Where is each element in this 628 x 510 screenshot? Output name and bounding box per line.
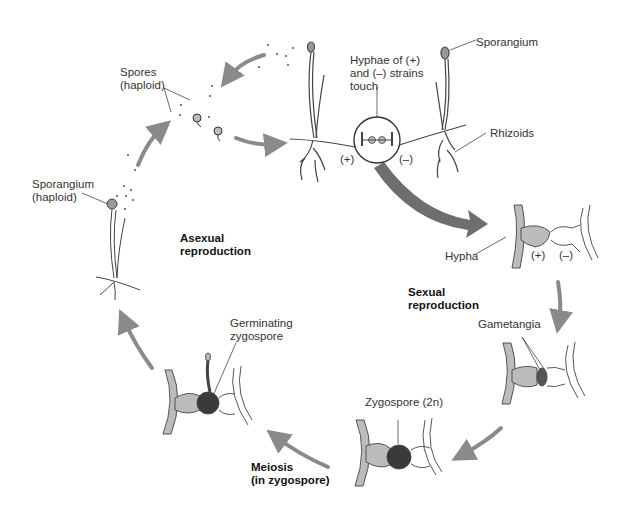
label-plus-strain: (+)	[340, 153, 354, 166]
label-gametangia: Gametangia	[478, 318, 541, 331]
big-arrow-to-sexual	[374, 162, 488, 238]
label-hyphae-touch: Hyphae of (+) and (–) strains touch	[350, 54, 424, 93]
arrow-gametangia-to-zygospore	[462, 428, 501, 455]
label-hypha-plus: (+)	[531, 249, 545, 262]
arrow-germ-to-asexual	[124, 320, 152, 368]
label-minus-strain: (–)	[399, 153, 413, 166]
stage-zygospore	[355, 418, 442, 486]
left-sporangium-plant	[96, 199, 140, 300]
stage-label-asexual: Asexual reproduction	[180, 232, 251, 258]
hyphae-touch-inset	[354, 87, 400, 163]
stage-label-sexual: Sexual reproduction	[408, 286, 479, 312]
label-spores: Spores (haploid)	[120, 66, 165, 92]
arrow-sexual-down	[558, 282, 560, 322]
label-sporangium: Sporangium	[476, 36, 538, 49]
arrow-left-up	[138, 128, 162, 165]
stage-hypha-contact	[512, 205, 598, 268]
label-zygospore: Zygospore (2n)	[365, 396, 443, 409]
arrow-spores-to-hyphae	[236, 138, 276, 144]
stage-label-meiosis: Meiosis (in zygospore)	[251, 461, 330, 487]
stage-gametangia	[502, 342, 585, 404]
label-hypha: Hypha	[445, 250, 478, 263]
stage-germinating-zygospore	[163, 353, 252, 434]
label-rhizoids: Rhizoids	[490, 127, 534, 140]
label-sporangium-haploid: Sporangium (haploid)	[32, 178, 94, 204]
germinating-spores	[193, 114, 222, 141]
label-hypha-minus: (–)	[559, 249, 573, 262]
label-germinating-zygospore: Germinating zygospore	[230, 317, 293, 343]
